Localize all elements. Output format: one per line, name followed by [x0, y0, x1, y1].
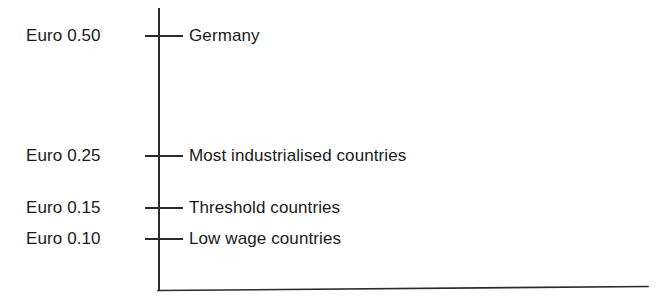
value-label: Euro 0.15: [26, 196, 134, 220]
tick-row: Euro 0.10 Low wage countries: [0, 227, 666, 251]
category-label: Most industrialised countries: [189, 144, 406, 168]
category-label: Germany: [189, 24, 260, 48]
value-label: Euro 0.10: [26, 227, 134, 251]
category-label: Low wage countries: [189, 227, 341, 251]
euro-wage-scale-chart: Euro 0.50 Germany Euro 0.25 Most industr…: [0, 0, 666, 305]
value-label: Euro 0.50: [26, 24, 134, 48]
tick-row: Euro 0.15 Threshold countries: [0, 196, 666, 220]
value-label: Euro 0.25: [26, 144, 134, 168]
tick-mark-icon: [145, 155, 183, 157]
category-label: Threshold countries: [189, 196, 340, 220]
tick-row: Euro 0.50 Germany: [0, 24, 666, 48]
tick-mark-icon: [145, 238, 183, 240]
tick-mark-icon: [145, 35, 183, 37]
tick-row: Euro 0.25 Most industrialised countries: [0, 144, 666, 168]
tick-mark-icon: [145, 207, 183, 209]
